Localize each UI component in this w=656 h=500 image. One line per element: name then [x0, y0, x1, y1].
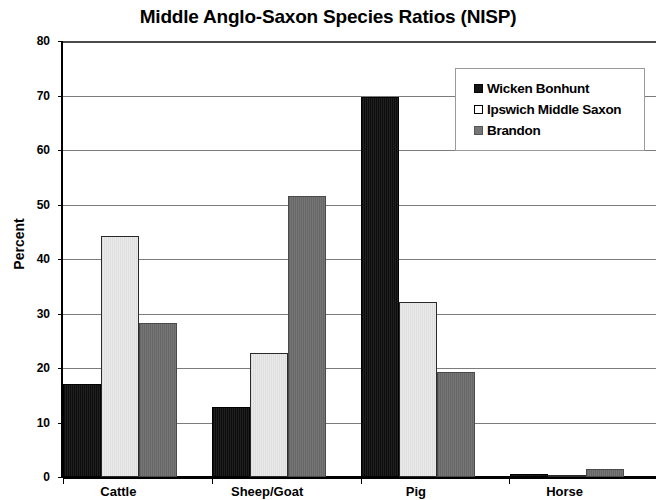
y-tick-mark [58, 368, 63, 369]
bar-sheep-goat-brandon [288, 196, 326, 477]
y-tick-label: 70 [0, 90, 50, 102]
gridline [63, 205, 656, 206]
chart-title: Middle Anglo-Saxon Species Ratios (NISP) [0, 6, 656, 28]
bar-chart: Middle Anglo-Saxon Species Ratios (NISP)… [0, 0, 656, 500]
y-tick-label: 10 [0, 417, 50, 429]
legend-swatch-icon [474, 84, 483, 93]
bar-pig-brandon [437, 372, 475, 477]
bar-pig-ipswich-middle-saxon [399, 302, 437, 477]
y-tick-label: 20 [0, 362, 50, 374]
legend-label: Wicken Bonhunt [487, 81, 589, 96]
legend-label: Brandon [487, 123, 540, 138]
x-tick-mark [509, 477, 510, 484]
gridline [63, 41, 656, 43]
chart-legend: Wicken BonhuntIpswich Middle SaxonBrando… [455, 68, 645, 151]
x-category-label-cattle: Cattle [100, 484, 136, 499]
y-tick-mark [58, 150, 63, 151]
bar-horse-ipswich-middle-saxon [548, 475, 586, 477]
bar-pig-wicken-bonhunt [361, 97, 399, 477]
gridline [63, 314, 656, 315]
legend-item-brandon[interactable]: Brandon [456, 120, 644, 141]
y-tick-mark [58, 423, 63, 424]
bar-sheep-goat-wicken-bonhunt [212, 407, 250, 477]
bar-horse-brandon [586, 469, 624, 477]
x-category-label-sheep-goat: Sheep/Goat [231, 484, 303, 499]
legend-item-wicken-bonhunt[interactable]: Wicken Bonhunt [456, 78, 644, 99]
y-tick-label: 0 [0, 471, 50, 483]
y-tick-label: 30 [0, 308, 50, 320]
x-category-label-horse: Horse [546, 484, 583, 499]
x-tick-mark [63, 477, 64, 484]
y-tick-mark [58, 96, 63, 97]
y-tick-label: 60 [0, 144, 50, 156]
y-tick-mark [58, 205, 63, 206]
y-axis-title: Percent [11, 204, 27, 284]
legend-item-ipswich-middle-saxon[interactable]: Ipswich Middle Saxon [456, 99, 644, 120]
bar-cattle-brandon [139, 323, 177, 477]
legend-swatch-icon [474, 126, 483, 135]
y-tick-mark [58, 314, 63, 315]
y-tick-label: 50 [0, 199, 50, 211]
x-tick-mark [361, 477, 362, 484]
gridline [63, 259, 656, 260]
y-tick-label: 40 [0, 253, 50, 265]
legend-swatch-icon [474, 105, 483, 114]
bar-cattle-ipswich-middle-saxon [101, 236, 139, 477]
bar-sheep-goat-ipswich-middle-saxon [250, 353, 288, 477]
bar-cattle-wicken-bonhunt [63, 384, 101, 477]
x-tick-mark [212, 477, 213, 484]
legend-label: Ipswich Middle Saxon [487, 102, 621, 117]
x-category-label-pig: Pig [406, 484, 426, 499]
y-tick-mark [58, 41, 63, 42]
bar-horse-wicken-bonhunt [510, 474, 548, 477]
y-tick-label: 80 [0, 35, 50, 47]
y-tick-mark [58, 259, 63, 260]
